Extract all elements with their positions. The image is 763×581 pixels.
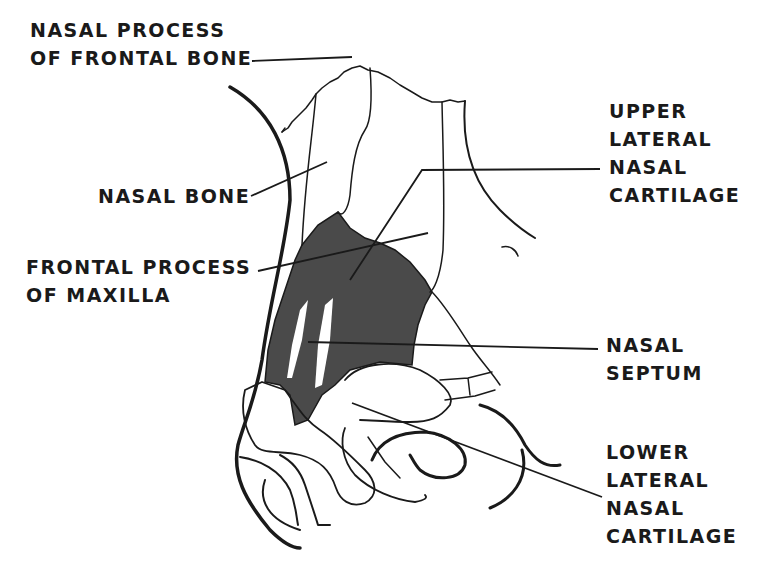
cartilage-segments <box>440 372 495 400</box>
label-nasal-bone: NASAL BONE <box>98 182 250 210</box>
shaded-maxilla-region <box>265 212 432 425</box>
alar-dome <box>345 364 451 422</box>
small-curl <box>502 247 518 256</box>
nose-anatomy-diagram: NASAL PROCESS OF FRONTAL BONE NASAL BONE… <box>0 0 763 581</box>
label-frontal-process-maxilla: FRONTAL PROCESS OF MAXILLA <box>26 253 251 309</box>
label-nasal-process-frontal-bone: NASAL PROCESS OF FRONTAL BONE <box>30 16 252 72</box>
nasal-bone-right-edge <box>430 102 444 292</box>
label-upper-lateral-nasal-cartilage: UPPER LATERAL NASAL CARTILAGE <box>609 97 740 209</box>
leader-nasal-process <box>252 57 352 61</box>
nasal-bone-divider <box>338 68 371 214</box>
lower-skin-folds <box>240 455 330 530</box>
frontal-bone-edge <box>282 66 465 132</box>
leader-lower-lateral <box>352 403 602 497</box>
nostril-curl <box>372 432 465 478</box>
label-lower-lateral-nasal-cartilage: LOWER LATERAL NASAL CARTILAGE <box>606 438 737 550</box>
label-nasal-septum: NASAL SEPTUM <box>606 331 703 387</box>
upper-lateral-cartilage-outline <box>432 292 500 385</box>
lower-lateral-crus <box>342 428 426 502</box>
